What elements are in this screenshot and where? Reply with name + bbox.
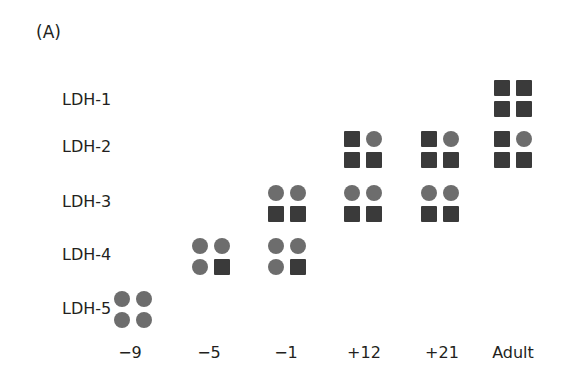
tetramer-ldh-3 xyxy=(268,185,306,222)
square-subunit-icon xyxy=(290,259,306,275)
square-subunit-icon xyxy=(366,206,382,222)
tetramer-ldh-3 xyxy=(344,185,382,222)
square-subunit-icon xyxy=(421,152,437,168)
panel-label: (A) xyxy=(36,22,61,42)
col-label-minus1: −1 xyxy=(256,343,316,362)
row-label-ldh5: LDH-5 xyxy=(62,300,111,318)
tetramer-ldh-3 xyxy=(421,185,459,222)
square-subunit-icon xyxy=(494,131,510,147)
circle-subunit-icon xyxy=(192,259,208,275)
row-label-ldh2: LDH-2 xyxy=(62,138,111,156)
circle-subunit-icon xyxy=(214,238,230,254)
circle-subunit-icon xyxy=(192,238,208,254)
square-subunit-icon xyxy=(366,152,382,168)
circle-subunit-icon xyxy=(516,131,532,147)
tetramer-ldh-1 xyxy=(494,80,532,117)
square-subunit-icon xyxy=(443,206,459,222)
circle-subunit-icon xyxy=(421,185,437,201)
square-subunit-icon xyxy=(214,259,230,275)
circle-subunit-icon xyxy=(344,185,360,201)
circle-subunit-icon xyxy=(268,185,284,201)
row-label-ldh3: LDH-3 xyxy=(62,193,111,211)
square-subunit-icon xyxy=(290,206,306,222)
col-label-minus5: −5 xyxy=(179,343,239,362)
col-label-adult: Adult xyxy=(483,343,543,362)
circle-subunit-icon xyxy=(268,238,284,254)
square-subunit-icon xyxy=(516,152,532,168)
col-label-plus21: +21 xyxy=(412,343,472,362)
col-label-minus9: −9 xyxy=(100,343,160,362)
row-label-ldh1: LDH-1 xyxy=(62,91,111,109)
square-subunit-icon xyxy=(516,101,532,117)
square-subunit-icon xyxy=(421,131,437,147)
row-label-ldh4: LDH-4 xyxy=(62,246,111,264)
circle-subunit-icon xyxy=(443,131,459,147)
circle-subunit-icon xyxy=(366,131,382,147)
tetramer-ldh-4 xyxy=(268,238,306,275)
square-subunit-icon xyxy=(443,152,459,168)
tetramer-ldh-5 xyxy=(114,291,152,328)
square-subunit-icon xyxy=(268,206,284,222)
square-subunit-icon xyxy=(494,101,510,117)
tetramer-ldh-2 xyxy=(494,131,532,168)
circle-subunit-icon xyxy=(136,291,152,307)
square-subunit-icon xyxy=(421,206,437,222)
tetramer-ldh-2 xyxy=(344,131,382,168)
circle-subunit-icon xyxy=(366,185,382,201)
circle-subunit-icon xyxy=(290,185,306,201)
square-subunit-icon xyxy=(344,152,360,168)
square-subunit-icon xyxy=(344,206,360,222)
circle-subunit-icon xyxy=(136,312,152,328)
square-subunit-icon xyxy=(494,152,510,168)
circle-subunit-icon xyxy=(290,238,306,254)
square-subunit-icon xyxy=(344,131,360,147)
tetramer-ldh-4 xyxy=(192,238,230,275)
circle-subunit-icon xyxy=(114,291,130,307)
tetramer-ldh-2 xyxy=(421,131,459,168)
circle-subunit-icon xyxy=(268,259,284,275)
square-subunit-icon xyxy=(494,80,510,96)
col-label-plus12: +12 xyxy=(334,343,394,362)
circle-subunit-icon xyxy=(443,185,459,201)
square-subunit-icon xyxy=(516,80,532,96)
circle-subunit-icon xyxy=(114,312,130,328)
